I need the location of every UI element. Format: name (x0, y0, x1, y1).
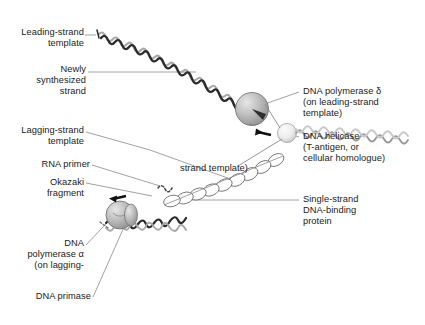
newly-synthesized-strand-strand (101, 36, 241, 110)
label-single-strand-dna-binding-protein: Single-strand DNA-binding protein (303, 194, 418, 228)
dna-polymerase-delta-sphere (236, 93, 269, 126)
label-newly-synthesized-strand: Newly synthesized strand (6, 64, 86, 98)
label-lagging-strand-template: Lagging-strand template (6, 125, 84, 147)
leader-rna-primer (92, 165, 160, 186)
leading-strand-left-tick (97, 30, 99, 38)
label-dna-helicase: DNA helicase (T-antigen, or cellular hom… (303, 131, 425, 165)
label-dna-polymerase-alpha: DNA polymerase α (on lagging- (4, 238, 84, 272)
dna-polymerase-alpha-sphere (106, 201, 138, 229)
label-dna-polymerase-delta: DNA polymerase δ (on leading-strand temp… (303, 86, 423, 120)
leading-strand-helix (97, 30, 241, 110)
label-rna-primer: RNA primer (6, 159, 90, 170)
label-leading-strand-template: Leading-strand template (6, 27, 84, 49)
arrow-polymerase-delta-direction (255, 129, 271, 136)
label-okazaki-fragment: Okazaki fragment (6, 177, 84, 199)
rna-primer-segment (158, 186, 172, 192)
leader-okazaki-fragment (86, 183, 152, 196)
label-dna-primase: DNA primase (6, 291, 91, 302)
label-dna-polymerase-alpha-continued: strand template) (180, 163, 280, 174)
dna-replication-fork-figure: Leading-strand template Newly synthesize… (0, 0, 425, 325)
